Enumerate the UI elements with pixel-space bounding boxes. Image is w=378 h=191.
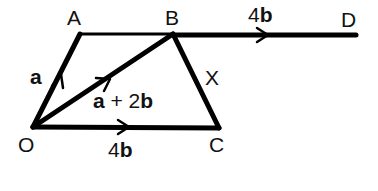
- label-C: C: [209, 133, 224, 156]
- label-A: A: [67, 6, 81, 29]
- label-X: X: [205, 66, 219, 89]
- vector-label-OC: 4b: [108, 138, 133, 161]
- vector-a: a: [93, 89, 105, 112]
- plus-2: + 2: [105, 89, 141, 112]
- vector-label-OA: a: [30, 65, 42, 88]
- vector-b: b: [140, 89, 153, 112]
- vector-label-OB: a + 2b: [93, 89, 153, 112]
- vector-b: b: [120, 138, 133, 161]
- vector-label-BD: 4b: [248, 3, 273, 26]
- vector-b: b: [260, 3, 273, 26]
- label-O: O: [18, 133, 34, 156]
- vector-diagram: A B D O C X a a + 2b 4b 4b: [0, 0, 378, 191]
- coef: 4: [108, 138, 120, 161]
- coef: 4: [248, 3, 260, 26]
- label-B: B: [165, 6, 179, 29]
- label-D: D: [341, 8, 356, 31]
